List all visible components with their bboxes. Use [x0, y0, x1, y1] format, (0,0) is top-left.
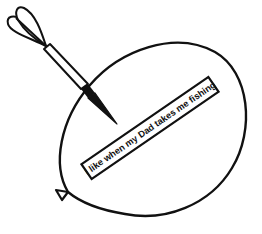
- illustration-canvas: I like when my Dad takes me fishing: [0, 0, 262, 234]
- balloon-knot: [56, 190, 68, 200]
- dart-tip: [88, 93, 117, 124]
- illustration-svg: I like when my Dad takes me fishing: [0, 0, 262, 234]
- banner-text: I like when my Dad takes me fishing: [83, 80, 218, 177]
- dart-icon: [8, 7, 117, 124]
- message-banner: I like when my Dad takes me fishing: [80, 76, 219, 180]
- dart-shaft: [44, 44, 88, 89]
